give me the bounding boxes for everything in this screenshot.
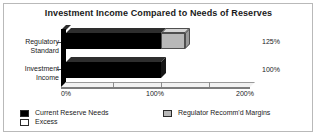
legend-swatch-icon: [163, 110, 172, 117]
chart-container: Investment Income Compared to Needs of R…: [0, 0, 317, 136]
x-axis-label-0: 0%: [49, 90, 83, 97]
x-axis-line: [61, 87, 250, 89]
x-axis-label-100: 100%: [138, 90, 172, 97]
legend-label: Regulator Recomm'd Margins: [178, 109, 270, 116]
bar-segment-current-reserve-needs: [66, 62, 161, 78]
bar-face: [66, 33, 161, 49]
category-label-regulatory-standard: Regulatory Standard: [0, 38, 59, 55]
x-axis-label-200: 200%: [228, 90, 262, 97]
bar-face: [162, 34, 184, 48]
value-label-regulatory-standard: 125%: [262, 38, 280, 45]
x-axis-tick-50: [113, 82, 114, 87]
legend-label: Excess: [35, 118, 58, 125]
y-axis-wall: [61, 29, 66, 87]
category-label-line2: Standard: [0, 47, 59, 56]
category-label-line1: Regulatory: [0, 38, 59, 47]
bar-segment-current-reserve-needs: [66, 33, 161, 49]
bar-segment-margins-side-face: [185, 28, 190, 49]
value-label-investment-income: 100%: [262, 66, 280, 73]
x-axis-tick-150: [209, 82, 210, 87]
category-label-investment-income: Investment Income: [0, 65, 59, 82]
category-label-line2: Income: [0, 74, 59, 83]
chart-legend: Current Reserve Needs Excess Regulator R…: [0, 108, 317, 132]
bar-face: [66, 62, 161, 78]
bar-segment-regulator-recommd-margins: [161, 33, 185, 49]
bar-segment-reserve-side-face: [161, 57, 166, 78]
x-axis-tick-100: [161, 82, 162, 87]
legend-label: Current Reserve Needs: [35, 109, 109, 116]
category-label-line1: Investment: [0, 65, 59, 74]
legend-swatch-icon: [20, 110, 29, 117]
legend-swatch-icon: [20, 119, 29, 126]
